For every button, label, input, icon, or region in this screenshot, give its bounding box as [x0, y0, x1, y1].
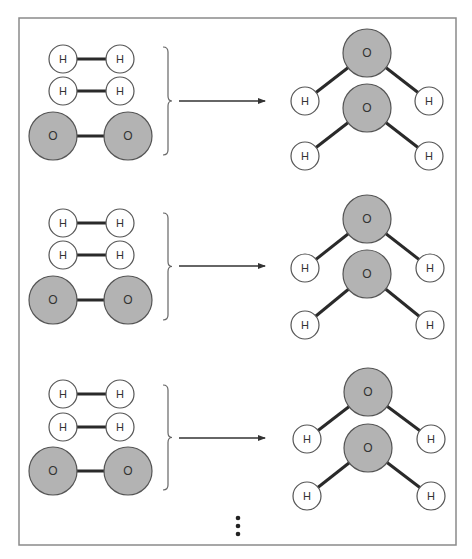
atom-label: H — [59, 421, 67, 433]
atom-label: O — [363, 441, 372, 455]
atom-label: H — [303, 490, 311, 502]
hydrogen-molecule: HH — [49, 380, 134, 408]
products: OHHOHH — [291, 29, 443, 170]
atom-label: H — [59, 388, 67, 400]
reaction-group-1: HHHHOOOHHOHH — [29, 29, 443, 170]
hydrogen-atom: H — [416, 254, 444, 282]
oxygen-atom: O — [343, 250, 391, 298]
atom-label: H — [427, 490, 435, 502]
hydrogen-atom: H — [416, 311, 444, 339]
diagram-canvas: HHHHOOOHHOHHHHHHOOOHHOHHHHHHOOOHHOHH — [0, 0, 472, 559]
hydrogen-atom: H — [417, 482, 445, 510]
hydrogen-molecule: HH — [49, 45, 134, 73]
atom-label: H — [59, 53, 67, 65]
atom-label: H — [116, 217, 124, 229]
hydrogen-atom: H — [106, 45, 134, 73]
hydrogen-atom: H — [49, 413, 77, 441]
atom-label: H — [59, 217, 67, 229]
atom-label: O — [123, 464, 132, 478]
oxygen-atom: O — [29, 112, 77, 160]
atom-label: H — [425, 95, 433, 107]
atom-label: H — [427, 433, 435, 445]
atom-label: H — [116, 85, 124, 97]
hydrogen-atom: H — [415, 142, 443, 170]
atom-label: O — [362, 46, 371, 60]
atom-label: H — [59, 249, 67, 261]
atom-label: H — [303, 433, 311, 445]
curly-brace-icon — [163, 385, 172, 490]
ellipsis-dot — [236, 524, 241, 529]
hydrogen-atom: H — [291, 311, 319, 339]
atom-label: H — [59, 85, 67, 97]
hydrogen-molecule: HH — [49, 413, 134, 441]
atom-label: H — [426, 319, 434, 331]
reactants: HHHHOO — [29, 45, 152, 160]
hydrogen-atom: H — [106, 380, 134, 408]
hydrogen-atom: H — [49, 77, 77, 105]
reactants: HHHHOO — [29, 209, 152, 324]
atom-label: O — [48, 129, 57, 143]
hydrogen-molecule: HH — [49, 209, 134, 237]
hydrogen-atom: H — [417, 425, 445, 453]
atom-label: H — [425, 150, 433, 162]
hydrogen-atom: H — [293, 482, 321, 510]
atom-label: H — [301, 150, 309, 162]
vertical-ellipsis-icon — [236, 516, 241, 537]
oxygen-molecule: OO — [29, 447, 152, 495]
hydrogen-atom: H — [49, 45, 77, 73]
atom-label: H — [116, 249, 124, 261]
reactants: HHHHOO — [29, 380, 152, 495]
atom-label: H — [301, 319, 309, 331]
hydrogen-atom: H — [291, 142, 319, 170]
reaction-group-2: HHHHOOOHHOHH — [29, 195, 444, 339]
oxygen-atom: O — [104, 447, 152, 495]
hydrogen-atom: H — [106, 77, 134, 105]
oxygen-atom: O — [29, 276, 77, 324]
atom-label: O — [123, 129, 132, 143]
oxygen-atom: O — [344, 368, 392, 416]
ellipsis-dot — [236, 516, 241, 521]
atom-label: H — [426, 262, 434, 274]
hydrogen-molecule: HH — [49, 77, 134, 105]
oxygen-atom: O — [343, 84, 391, 132]
curly-brace-icon — [163, 47, 172, 155]
atom-label: H — [301, 95, 309, 107]
oxygen-atom: O — [104, 276, 152, 324]
curly-brace-icon — [163, 213, 172, 320]
products: OHHOHH — [291, 195, 444, 339]
oxygen-molecule: OO — [29, 276, 152, 324]
hydrogen-atom: H — [49, 241, 77, 269]
oxygen-atom: O — [29, 447, 77, 495]
oxygen-atom: O — [343, 195, 391, 243]
oxygen-atom: O — [343, 29, 391, 77]
hydrogen-atom: H — [106, 209, 134, 237]
oxygen-atom: O — [104, 112, 152, 160]
atom-label: O — [362, 101, 371, 115]
hydrogen-molecule: HH — [49, 241, 134, 269]
hydrogen-atom: H — [49, 380, 77, 408]
atom-label: H — [116, 421, 124, 433]
atom-label: O — [123, 293, 132, 307]
oxygen-molecule: OO — [29, 112, 152, 160]
atom-label: O — [48, 464, 57, 478]
hydrogen-atom: H — [291, 254, 319, 282]
hydrogen-atom: H — [106, 413, 134, 441]
atom-label: O — [362, 267, 371, 281]
atom-label: O — [363, 385, 372, 399]
reaction-diagram: HHHHOOOHHOHHHHHHOOOHHOHHHHHHOOOHHOHH — [0, 0, 472, 559]
ellipsis-dot — [236, 532, 241, 537]
hydrogen-atom: H — [49, 209, 77, 237]
atom-label: O — [362, 212, 371, 226]
atom-label: H — [116, 53, 124, 65]
hydrogen-atom: H — [415, 87, 443, 115]
hydrogen-atom: H — [106, 241, 134, 269]
hydrogen-atom: H — [291, 87, 319, 115]
atom-label: O — [48, 293, 57, 307]
atom-label: H — [116, 388, 124, 400]
reaction-group-3: HHHHOOOHHOHH — [29, 368, 445, 510]
oxygen-atom: O — [344, 424, 392, 472]
hydrogen-atom: H — [293, 425, 321, 453]
atom-label: H — [301, 262, 309, 274]
products: OHHOHH — [293, 368, 445, 510]
